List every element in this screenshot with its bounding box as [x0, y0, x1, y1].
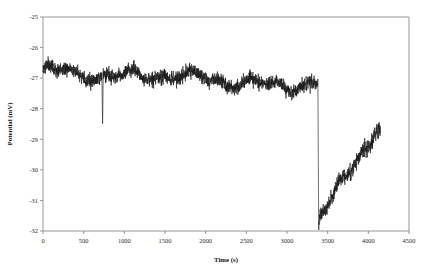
- x-tick-label: 4000: [362, 237, 375, 244]
- y-tick-label: -28: [29, 105, 38, 112]
- x-tick-label: 1000: [118, 237, 131, 244]
- x-tick-label: 3500: [321, 237, 334, 244]
- data-trace-potential: [43, 57, 380, 230]
- x-tick-label: 2000: [199, 237, 212, 244]
- plot-frame: [43, 17, 409, 231]
- y-tick-label: -29: [29, 136, 38, 143]
- data-series-group: [43, 57, 380, 230]
- potential-vs-time-plot: -25-26-27-28-29-30-31-32 050010001500200…: [0, 0, 433, 269]
- y-axis-tick-labels: -25-26-27-28-29-30-31-32: [29, 13, 38, 234]
- x-axis-tick-labels: 050010001500200025003000350040004500: [41, 237, 415, 244]
- x-tick-label: 3000: [281, 237, 294, 244]
- x-tick-label: 500: [79, 237, 89, 244]
- x-axis-title: Time (s): [214, 256, 238, 264]
- y-tick-label: -32: [29, 227, 38, 234]
- x-tick-label: 4500: [403, 237, 416, 244]
- x-tick-label: 1500: [159, 237, 172, 244]
- y-tick-label: -27: [29, 74, 38, 81]
- y-tick-label: -25: [29, 13, 38, 20]
- x-tick-label: 2500: [240, 237, 253, 244]
- y-tick-label: -26: [29, 44, 38, 51]
- axis-box: [43, 17, 409, 231]
- y-tick-label: -30: [29, 166, 38, 173]
- y-tick-label: -31: [29, 197, 38, 204]
- y-axis-title: Potential (mV): [6, 103, 14, 146]
- chart-figure: -25-26-27-28-29-30-31-32 050010001500200…: [0, 0, 433, 269]
- x-tick-label: 0: [41, 237, 44, 244]
